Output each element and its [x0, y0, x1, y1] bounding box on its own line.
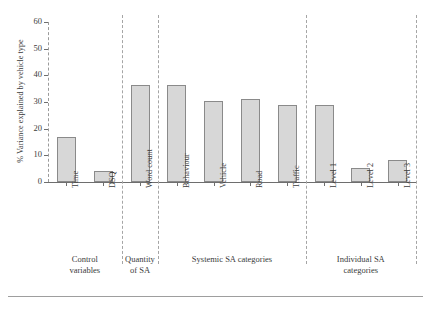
x-axis-tick-mark — [324, 182, 325, 186]
y-axis-tick-label: 20 — [34, 123, 43, 134]
x-axis-tick-label: Word count — [144, 149, 155, 188]
y-axis-tick-mark — [44, 182, 48, 183]
y-axis-tick-label: 30 — [34, 96, 43, 107]
x-axis-tick-mark — [398, 182, 399, 186]
x-axis-tick-label: Traffic — [291, 165, 302, 188]
y-axis-tick-mark — [44, 102, 48, 103]
x-axis-tick-label: Time — [70, 171, 81, 188]
x-axis-tick-label: Vehicle — [218, 163, 229, 188]
group-separator — [306, 15, 307, 264]
y-axis-tick-label: 50 — [34, 43, 43, 54]
x-axis-tick-mark — [250, 182, 251, 186]
y-axis-tick-mark — [44, 155, 48, 156]
y-axis-tick-mark — [44, 22, 48, 23]
group-label-line: Individual SA — [306, 254, 416, 265]
plot-area: 0102030405060 TimeDSQWord countBehaviour… — [48, 22, 416, 182]
x-axis-tick-label: Level 3 — [402, 163, 413, 188]
group-separator — [122, 15, 123, 264]
y-axis-tick-mark — [44, 129, 48, 130]
group-label-line: Control — [48, 254, 122, 265]
group-label-line: Quantity — [122, 254, 159, 265]
group-label: Individual SAcategories — [306, 254, 416, 276]
x-axis-tick-mark — [103, 182, 104, 186]
group-label: Controlvariables — [48, 254, 122, 276]
group-label: Systemic SA categories — [158, 254, 305, 265]
y-axis-line — [48, 22, 49, 182]
y-axis-tick-label: 10 — [34, 149, 43, 160]
y-axis-tick-label: 60 — [34, 16, 43, 27]
x-axis-tick-mark — [140, 182, 141, 186]
x-axis-tick-mark — [177, 182, 178, 186]
group-label-line: variables — [48, 265, 122, 276]
group-label-line: categories — [306, 265, 416, 276]
x-axis-tick-mark — [214, 182, 215, 186]
bottom-divider-rule — [8, 296, 423, 297]
chart-figure: % Variance explained by vehicle type 010… — [0, 0, 431, 309]
group-separator — [158, 15, 159, 264]
group-label-line: Systemic SA categories — [158, 254, 305, 265]
x-axis-tick-mark — [66, 182, 67, 186]
x-axis-tick-label: Level 2 — [365, 163, 376, 188]
group-label: Quantityof SA — [122, 254, 159, 276]
group-separator — [416, 15, 417, 264]
y-axis-title: % Variance explained by vehicle type — [14, 6, 28, 196]
x-axis-tick-label: Behaviour — [181, 153, 192, 188]
x-axis-tick-label: DSQ — [107, 171, 118, 188]
x-axis-tick-label: Road — [254, 170, 265, 188]
y-axis-tick-mark — [44, 49, 48, 50]
y-axis-tick-label: 40 — [34, 69, 43, 80]
y-axis-tick-label: 0 — [38, 176, 42, 187]
x-axis-tick-mark — [287, 182, 288, 186]
x-axis-tick-label: Level 1 — [328, 163, 339, 188]
group-label-line: of SA — [122, 265, 159, 276]
x-axis-tick-mark — [361, 182, 362, 186]
y-axis-tick-mark — [44, 75, 48, 76]
